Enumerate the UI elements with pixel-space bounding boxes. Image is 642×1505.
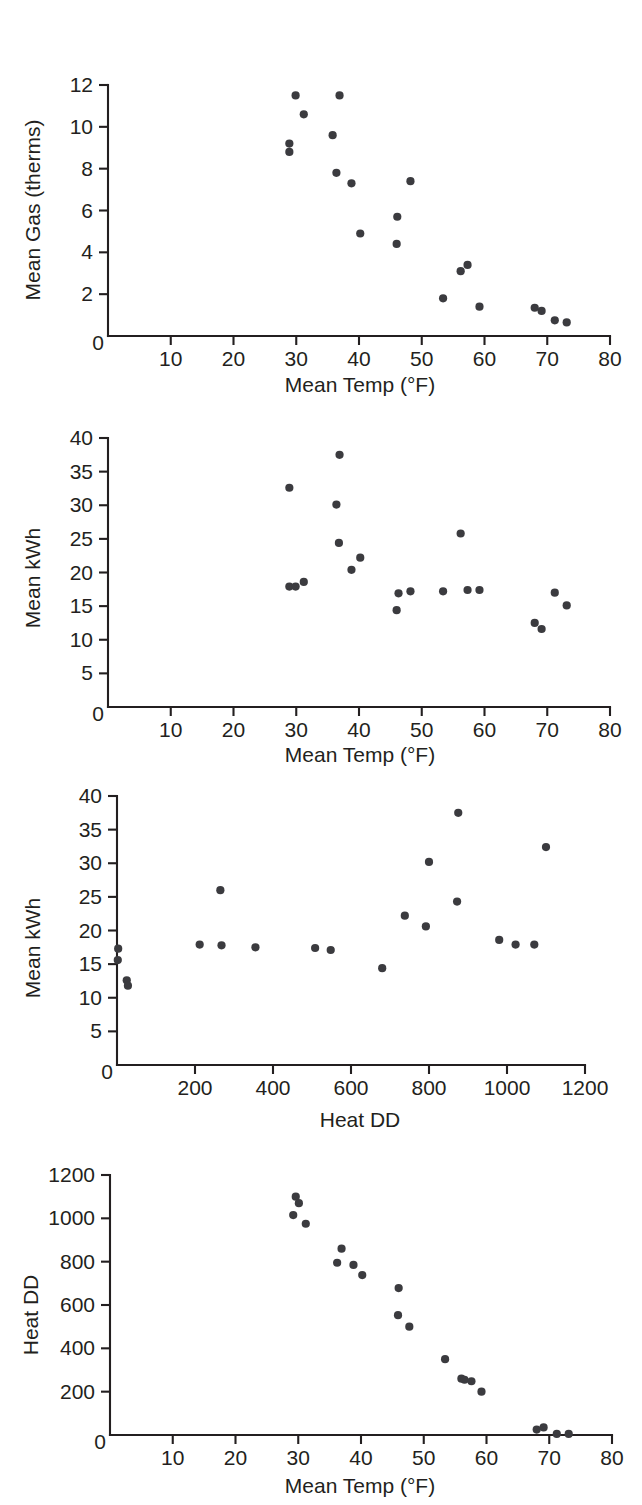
- x-tick-label: 20: [224, 1446, 247, 1469]
- x-axis-title-a: Mean Temp (°F): [285, 373, 435, 396]
- y-tick-label: 800: [60, 1250, 95, 1273]
- scatter-point: [358, 1271, 366, 1279]
- scatter-point: [394, 589, 402, 597]
- y-tick-label: 30: [79, 851, 102, 874]
- scatter-point: [295, 1199, 303, 1207]
- data-points-group-b: [285, 451, 571, 633]
- y-tick-label: 30: [70, 493, 93, 516]
- scatter-point: [216, 886, 224, 894]
- scatter-point: [378, 964, 386, 972]
- y-axis-group-d: 20040060080010001200: [48, 1163, 110, 1435]
- chart-panel-gas-vs-temp: 24681012 10203040506070800 Mean Temp (°F…: [0, 0, 642, 400]
- origin-zero-label: 0: [92, 702, 104, 725]
- scatter-point: [425, 858, 433, 866]
- y-tick-label: 8: [81, 157, 93, 180]
- scatter-point: [401, 912, 409, 920]
- y-tick-label: 15: [70, 594, 93, 617]
- chart-svg-panel-b: 510152025303540 10203040506070800 Mean T…: [0, 400, 642, 770]
- y-tick-label: 15: [79, 952, 102, 975]
- y-tick-label: 5: [81, 661, 93, 684]
- x-axis-group-d: 10203040506070800: [94, 1430, 624, 1469]
- y-axis-title-a: Mean Gas (therms): [21, 120, 44, 301]
- scatter-point: [356, 229, 364, 237]
- scatter-point: [114, 945, 122, 953]
- y-tick-label: 10: [70, 628, 93, 651]
- scatter-point: [335, 539, 343, 547]
- y-tick-label: 40: [70, 426, 93, 449]
- x-tick-label: 20: [222, 718, 245, 741]
- scatter-point: [393, 213, 401, 221]
- scatter-point: [292, 91, 300, 99]
- x-tick-label: 40: [347, 347, 370, 370]
- scatter-point: [289, 1211, 297, 1219]
- y-tick-label: 6: [81, 199, 93, 222]
- x-tick-label: 10: [159, 347, 182, 370]
- scatter-point: [292, 583, 300, 591]
- y-tick-label: 35: [79, 818, 102, 841]
- x-tick-label: 50: [412, 1446, 435, 1469]
- x-tick-label: 60: [475, 1446, 498, 1469]
- scatter-point: [300, 110, 308, 118]
- y-tick-label: 12: [70, 73, 93, 96]
- scatter-point: [393, 606, 401, 614]
- scatter-point: [349, 1261, 357, 1269]
- x-tick-label: 80: [598, 347, 621, 370]
- scatter-point: [332, 169, 340, 177]
- y-tick-label: 4: [81, 240, 93, 263]
- x-tick-label: 40: [347, 718, 370, 741]
- scatter-point: [196, 941, 204, 949]
- scatter-point: [251, 943, 259, 951]
- scatter-point: [540, 1423, 548, 1431]
- y-tick-label: 35: [70, 460, 93, 483]
- scatter-point: [285, 484, 293, 492]
- x-tick-label: 800: [411, 1076, 446, 1099]
- scatter-point: [475, 586, 483, 594]
- x-tick-label: 1200: [562, 1076, 609, 1099]
- scatter-point: [460, 1376, 468, 1384]
- scatter-point: [551, 316, 559, 324]
- y-tick-label: 10: [70, 115, 93, 138]
- scatter-point: [347, 566, 355, 574]
- scatter-point: [393, 240, 401, 248]
- y-tick-label: 1000: [48, 1206, 95, 1229]
- scatter-point: [394, 1311, 402, 1319]
- scatter-point: [285, 139, 293, 147]
- scatter-point: [333, 1259, 341, 1267]
- x-tick-label: 70: [536, 718, 559, 741]
- y-tick-label: 20: [79, 919, 102, 942]
- x-axis-title-d: Mean Temp (°F): [285, 1474, 435, 1497]
- origin-zero-label: 0: [101, 1060, 113, 1083]
- scatter-point: [511, 941, 519, 949]
- x-tick-label: 10: [161, 1446, 184, 1469]
- scatter-point: [114, 956, 122, 964]
- scatter-point: [530, 941, 538, 949]
- y-tick-label: 5: [90, 1019, 102, 1042]
- scatter-point: [347, 179, 355, 187]
- x-tick-label: 200: [177, 1076, 212, 1099]
- scatter-point: [395, 1284, 403, 1292]
- x-tick-label: 30: [287, 1446, 310, 1469]
- y-tick-label: 25: [70, 527, 93, 550]
- x-tick-label: 30: [285, 347, 308, 370]
- chart-svg-panel-a: 24681012 10203040506070800 Mean Temp (°F…: [0, 0, 642, 400]
- x-tick-label: 10: [159, 718, 182, 741]
- scatter-point: [531, 619, 539, 627]
- scatter-point: [439, 587, 447, 595]
- data-points-group-a: [285, 91, 571, 326]
- scatter-point: [553, 1430, 561, 1438]
- scatter-point: [538, 625, 546, 633]
- y-axis-title-b: Mean kWh: [21, 528, 44, 628]
- x-tick-label: 50: [410, 347, 433, 370]
- y-axis-title-c: Mean kWh: [21, 898, 44, 998]
- x-axis-group-b: 10203040506070800: [92, 702, 622, 741]
- x-tick-label: 70: [538, 1446, 561, 1469]
- scatter-point: [463, 586, 471, 594]
- scatter-point: [406, 587, 414, 595]
- y-tick-label: 600: [60, 1293, 95, 1316]
- x-tick-label: 80: [600, 1446, 623, 1469]
- scatter-point: [563, 601, 571, 609]
- scatter-point: [454, 809, 462, 817]
- y-tick-label: 1200: [48, 1163, 95, 1186]
- chart-svg-panel-d: 20040060080010001200 10203040506070800 M…: [0, 1135, 642, 1505]
- x-axis-title-c: Heat DD: [320, 1108, 401, 1131]
